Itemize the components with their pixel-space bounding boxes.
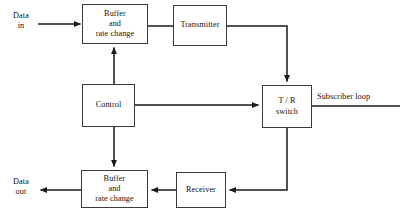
node-transmitter[interactable]: Transmitter: [173, 5, 227, 46]
label-data-in-line1: Data: [5, 11, 37, 21]
node-label-line: Receiver: [186, 185, 216, 195]
node-label-line: Transmitter: [180, 20, 219, 30]
node-label-line: T / R: [278, 96, 295, 106]
label-subscriber-loop: Subscriber loop: [317, 92, 370, 102]
label-data-out-line1: Data: [4, 177, 38, 187]
edge-tr-switch-to-receiver: [230, 128, 288, 190]
node-label-line: and: [109, 19, 121, 29]
node-label-line: switch: [276, 107, 298, 117]
node-label-line: Control: [96, 100, 122, 110]
node-label-line: rate change: [95, 194, 134, 204]
node-label-line: Buffer: [104, 9, 126, 19]
node-receiver[interactable]: Receiver: [176, 172, 226, 208]
node-label-line: and: [108, 184, 120, 194]
node-tr-switch[interactable]: T / R switch: [262, 85, 312, 128]
block-diagram-canvas: Buffer and rate change Transmitter Contr…: [0, 0, 400, 218]
label-data-in: Data in: [5, 11, 37, 31]
label-data-out-line2: out: [4, 187, 38, 197]
node-label-line: Buffer: [104, 174, 126, 184]
label-data-out: Data out: [4, 177, 38, 197]
node-control[interactable]: Control: [82, 84, 135, 127]
label-data-in-line2: in: [5, 21, 37, 31]
node-buffer-rate-change-receive[interactable]: Buffer and rate change: [81, 170, 148, 208]
node-label-line: rate change: [96, 29, 135, 39]
node-buffer-rate-change-transmit[interactable]: Buffer and rate change: [82, 4, 148, 44]
edge-transmitter-to-tr-switch: [227, 26, 287, 82]
